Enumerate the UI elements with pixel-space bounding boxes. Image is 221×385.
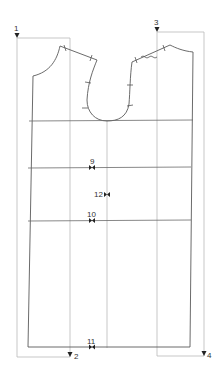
guide-lines <box>17 32 204 357</box>
arrow-down-icon-1 <box>15 33 20 38</box>
arrow-down-icon-2 <box>68 352 73 357</box>
point-label-4: 4 <box>207 351 212 360</box>
point-label-3: 3 <box>154 18 159 27</box>
point-labels: 1 2 3 4 <box>14 18 212 361</box>
right-side-seam <box>190 52 193 347</box>
arrow-down-icon-4 <box>202 351 207 356</box>
tick-neck-right-2 <box>127 105 133 106</box>
left-armhole-curve <box>33 46 60 76</box>
notch-label-12: 12 <box>94 190 103 199</box>
arrow-down-icon-3 <box>155 27 160 32</box>
pattern-outline <box>28 45 193 347</box>
notch-label-9: 9 <box>90 157 95 166</box>
hip-line <box>28 220 191 221</box>
notch-label-11: 11 <box>87 337 96 346</box>
right-shoulder <box>132 45 193 62</box>
point-label-2: 2 <box>74 352 79 361</box>
notch-labels: 9 12 10 11 <box>87 157 103 346</box>
chest-line <box>29 120 193 121</box>
neckline-curve <box>87 60 132 121</box>
point-arrows <box>15 27 207 357</box>
guide-box-left <box>17 38 70 357</box>
guide-box-right <box>157 32 204 356</box>
tick-neck-left-1 <box>85 82 91 83</box>
waist-line <box>28 167 191 168</box>
horizontal-lines <box>28 120 193 221</box>
notch-label-10: 10 <box>87 210 96 219</box>
point-label-1: 1 <box>14 24 19 33</box>
bodice-pattern-diagram: 1 2 3 4 9 12 10 11 <box>0 0 221 385</box>
left-side-seam <box>28 76 33 347</box>
